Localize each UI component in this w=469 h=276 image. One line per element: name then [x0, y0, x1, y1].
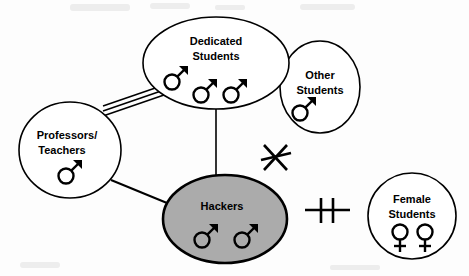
node-dedicated-students[interactable]: Dedicated Students: [143, 17, 289, 109]
dedicated-students-shape: [143, 17, 289, 109]
hackers-shape: [163, 175, 287, 263]
female-students-label-line1: Female: [393, 193, 431, 205]
female-students-label-line2: Students: [388, 208, 435, 220]
crossed-out-x-icon: [261, 145, 291, 170]
dedicated-students-label-line1: Dedicated: [190, 35, 243, 47]
professors-teachers-label-line2: Teachers: [38, 144, 86, 156]
other-students-label-line2: Students: [296, 84, 343, 96]
other-students-label-line1: Other: [305, 69, 335, 81]
edge-professors-to-dedicated: [103, 85, 164, 116]
dedicated-students-label-line2: Students: [192, 50, 239, 62]
double-bar-icon: [305, 198, 350, 223]
diagram-canvas: Other Students Dedicated Students: [0, 0, 469, 276]
node-hackers[interactable]: Hackers: [163, 175, 287, 263]
node-professors-teachers[interactable]: Professors/ Teachers: [19, 102, 121, 198]
node-other-students[interactable]: Other Students: [280, 41, 360, 133]
hackers-label-line1: Hackers: [201, 200, 244, 212]
professors-teachers-label-line1: Professors/: [37, 129, 98, 141]
edge-professors-to-hackers: [111, 180, 167, 203]
node-female-students[interactable]: Female Students: [368, 173, 456, 259]
social-network-diagram: Other Students Dedicated Students: [0, 0, 469, 276]
